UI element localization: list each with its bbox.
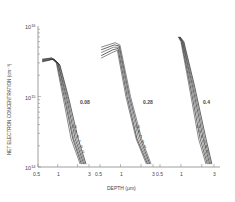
svg-text:0.5: 0.5: [95, 171, 102, 177]
y-tick-label-mid: 1015: [25, 94, 36, 102]
panel-2-ticks: 0.5 1 3: [95, 171, 155, 177]
panel-3-label: 0.4: [203, 99, 210, 105]
svg-text:3: 3: [88, 171, 91, 177]
svg-text:1: 1: [180, 171, 183, 177]
curve-label: 5: [82, 149, 85, 154]
panel-2-label: 0.28: [143, 99, 153, 105]
x-ticks: [38, 164, 214, 167]
svg-text:1: 1: [57, 171, 60, 177]
curve-8: [42, 59, 84, 164]
y-tick-label-top: 1016: [25, 23, 36, 31]
svg-text:0.5: 0.5: [156, 171, 163, 177]
curve-7: [101, 47, 149, 164]
curves: [42, 37, 212, 164]
x-axis-label: DEPTH (μm): [107, 185, 136, 191]
depth-profile-chart: 1016 1015 1014 NET ELECTRON CONCENTRATIO…: [0, 0, 235, 202]
svg-text:3: 3: [152, 171, 155, 177]
curve-label: 5: [144, 144, 147, 149]
svg-text:0.5: 0.5: [33, 171, 40, 177]
panel-3-ticks: 0.5 1 3: [156, 171, 216, 177]
panel-1-label: 0.08: [80, 99, 90, 105]
svg-text:3: 3: [213, 171, 216, 177]
y-ticks: [38, 29, 41, 167]
panel-1-ticks: 0.5 1 3: [33, 171, 91, 177]
y-axis-label: NET ELECTRON CONCENTRATION (cm⁻³): [7, 63, 12, 155]
y-tick-label-bottom: 1014: [25, 164, 36, 172]
curve-5: [42, 58, 80, 164]
curve-labels: 10987651097651098765: [72, 124, 209, 154]
svg-text:1: 1: [120, 171, 123, 177]
